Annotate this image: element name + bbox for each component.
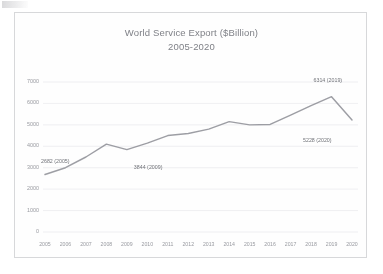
x-axis-tick-label: 2013 xyxy=(199,241,219,247)
x-axis-tick-label: 2020 xyxy=(342,241,362,247)
x-axis-tick-label: 2015 xyxy=(240,241,260,247)
y-axis-tick-label: 1000 xyxy=(17,207,39,213)
y-axis-tick-label: 5000 xyxy=(17,121,39,127)
x-axis-tick-label: 2011 xyxy=(158,241,178,247)
x-axis-tick-label: 2006 xyxy=(55,241,75,247)
gridlines xyxy=(43,82,358,232)
data-point-label-2019: 6314 (2019) xyxy=(314,77,343,83)
x-axis-tick-label: 2007 xyxy=(76,241,96,247)
y-axis-tick-label: 4000 xyxy=(17,142,39,148)
x-axis-tick-label: 2008 xyxy=(96,241,116,247)
x-axis-tick-label: 2018 xyxy=(301,241,321,247)
y-axis-tick-label: 7000 xyxy=(17,78,39,84)
x-axis-tick-label: 2017 xyxy=(281,241,301,247)
x-axis-tick-label: 2014 xyxy=(219,241,239,247)
y-axis-tick-label: 6000 xyxy=(17,99,39,105)
x-axis-tick-label: 2019 xyxy=(322,241,342,247)
data-point-label-2009: 3844 (2009) xyxy=(134,164,163,170)
y-axis-tick-label: 3000 xyxy=(17,164,39,170)
x-axis-tick-label: 2012 xyxy=(178,241,198,247)
series-line-world-service-export xyxy=(45,97,352,175)
y-axis-tick-label: 0 xyxy=(17,228,39,234)
x-axis-tick-label: 2009 xyxy=(117,241,137,247)
x-axis-tick-label: 2016 xyxy=(260,241,280,247)
x-axis-tick-label: 2010 xyxy=(137,241,157,247)
x-axis-tick-label: 2005 xyxy=(35,241,55,247)
y-axis-tick-label: 2000 xyxy=(17,185,39,191)
data-point-label-2005: 2682 (2005) xyxy=(41,158,70,164)
data-point-label-2020: 5228 (2020) xyxy=(303,137,332,143)
